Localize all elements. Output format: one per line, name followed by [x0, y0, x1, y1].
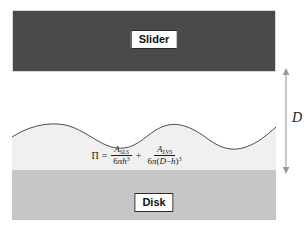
arrow-head-up	[283, 68, 290, 75]
disk-label: Disk	[134, 193, 173, 212]
slider-label: Slider	[131, 30, 178, 49]
term1-numerator: ASLS	[111, 145, 132, 156]
diagram-canvas: Slider Disk D Π = ASLS 6πh3 + ALVS 6π(D−…	[0, 0, 308, 229]
term1-denominator: 6πh3	[110, 156, 133, 166]
gap-dimension-label: D	[292, 110, 302, 126]
arrow-head-down	[283, 167, 290, 174]
equation-equals: =	[101, 151, 109, 161]
equation-term-2: ALVS 6π(D−h)3	[144, 145, 184, 167]
equation-row: Π = ASLS 6πh3 + ALVS 6π(D−h)3	[91, 145, 184, 167]
term1-den-exponent: 3	[127, 156, 130, 162]
equation-plus: +	[135, 151, 143, 161]
equation-lhs: Π	[91, 151, 98, 161]
disjoining-pressure-equation: Π = ASLS 6πh3 + ALVS 6π(D−h)3	[0, 145, 276, 167]
term2-numerator-subscript: LVS	[162, 149, 172, 155]
term2-den-exponent: 3	[179, 156, 182, 162]
term1-numerator-subscript: SLS	[120, 149, 129, 155]
equation-term-1: ASLS 6πh3	[110, 145, 133, 167]
term2-numerator: ALVS	[154, 145, 175, 156]
term2-denominator: 6π(D−h)3	[144, 156, 184, 166]
